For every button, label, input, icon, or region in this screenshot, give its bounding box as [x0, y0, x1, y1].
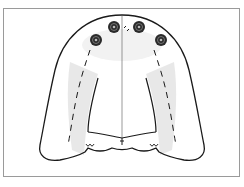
tuberosity-left	[86, 144, 94, 146]
maxilla-diagram	[0, 0, 244, 187]
implant-1	[90, 34, 102, 46]
posterior-notch	[120, 138, 124, 145]
tuberosity-right	[150, 144, 158, 146]
implant-3	[133, 21, 145, 33]
implant-2	[108, 21, 120, 33]
implant-4	[155, 34, 167, 46]
